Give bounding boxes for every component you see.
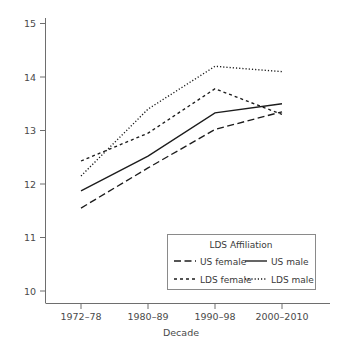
- series-line-us-female: [81, 112, 282, 208]
- series-line-lds-female: [81, 89, 282, 161]
- legend[interactable]: LDS Affiliation US female US male LDS fe…: [168, 235, 316, 290]
- y-tick-label-10: 10: [24, 286, 36, 297]
- y-tick-label-13: 13: [24, 125, 36, 136]
- legend-label-lds-male[interactable]: LDS male: [271, 275, 314, 285]
- y-tick-label-12: 12: [24, 179, 36, 190]
- x-axis-tick-labels: 1972–78 1980–89 1990–98 2000–2010: [60, 311, 308, 322]
- y-axis-ticks: [40, 24, 46, 292]
- x-tick-label-3: 2000–2010: [255, 311, 308, 322]
- series-group: [81, 66, 282, 208]
- y-tick-label-14: 14: [24, 72, 36, 83]
- y-tick-label-15: 15: [24, 18, 36, 29]
- series-line-lds-male: [81, 66, 282, 176]
- line-chart: 15 14 13 12 11 10 1972–78 1980–89 1990–9…: [0, 0, 338, 344]
- x-tick-label-1: 1980–89: [127, 311, 168, 322]
- series-line-us-male: [81, 104, 282, 191]
- x-axis-title: Decade: [163, 327, 199, 338]
- legend-label-us-male[interactable]: US male: [271, 257, 309, 267]
- x-tick-label-2: 1990–98: [194, 311, 235, 322]
- x-axis-ticks: [81, 304, 282, 310]
- chart-canvas: 15 14 13 12 11 10 1972–78 1980–89 1990–9…: [0, 0, 338, 344]
- x-tick-label-0: 1972–78: [60, 311, 101, 322]
- legend-label-lds-female[interactable]: LDS female: [200, 275, 252, 285]
- legend-title: LDS Affiliation: [209, 240, 272, 250]
- y-axis-tick-labels: 15 14 13 12 11 10: [24, 18, 36, 297]
- legend-label-us-female[interactable]: US female: [200, 257, 247, 267]
- y-tick-label-11: 11: [24, 232, 36, 243]
